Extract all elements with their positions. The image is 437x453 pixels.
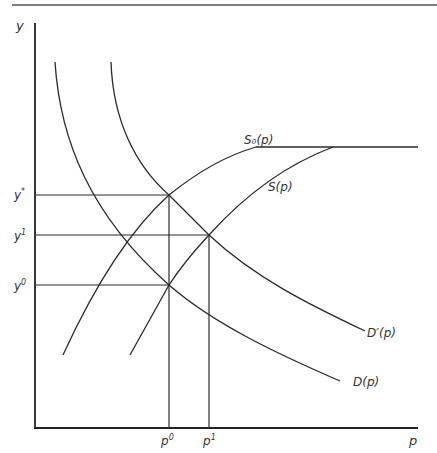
svg-text:y1: y1 — [13, 228, 26, 243]
svg-text:y0: y0 — [13, 278, 26, 293]
demand-curve-d — [55, 62, 340, 381]
x-axis-label: p — [408, 433, 417, 448]
label-d-prime: D′(p) — [367, 326, 396, 340]
y-tick-y-one: y1 — [13, 228, 26, 243]
supply-demand-diagram: y p y* y1 y0 p0 p1 — [0, 0, 437, 453]
svg-text:p0: p0 — [160, 433, 174, 448]
y-tick-y-star: y* — [13, 187, 25, 202]
label-d: D(p) — [353, 375, 379, 389]
demand-curve-d-prime — [111, 62, 365, 331]
x-tick-p-zero: p0 — [160, 433, 174, 448]
supply-curve-s0 — [63, 147, 418, 355]
y-tick-y-zero: y0 — [13, 278, 26, 293]
label-s0: S₀(p) — [244, 133, 273, 147]
y-axis-label: y — [15, 18, 24, 33]
supply-curve-s — [130, 147, 333, 355]
label-s: S(p) — [268, 180, 293, 194]
svg-text:p1: p1 — [202, 433, 216, 448]
svg-text:y*: y* — [13, 187, 25, 202]
x-tick-p-one: p1 — [202, 433, 216, 448]
